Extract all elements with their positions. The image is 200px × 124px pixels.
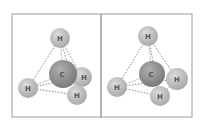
atom-label: H xyxy=(145,33,151,41)
atom-label: H xyxy=(74,92,80,100)
atom-label: H xyxy=(57,35,63,43)
atom-label: C xyxy=(148,71,153,79)
atom-label: H xyxy=(25,85,31,93)
atom-label: C xyxy=(59,71,64,79)
atom-label: H xyxy=(81,74,87,82)
left-methane-model: H H H C H xyxy=(18,28,92,105)
methane-tetrahedron-figure: H H H C H H H H C H xyxy=(0,0,200,124)
atom-label: H xyxy=(157,93,163,101)
right-methane-model: H H H C H xyxy=(107,26,188,106)
atom-label: H xyxy=(114,84,120,92)
atom-label: H xyxy=(174,76,180,84)
